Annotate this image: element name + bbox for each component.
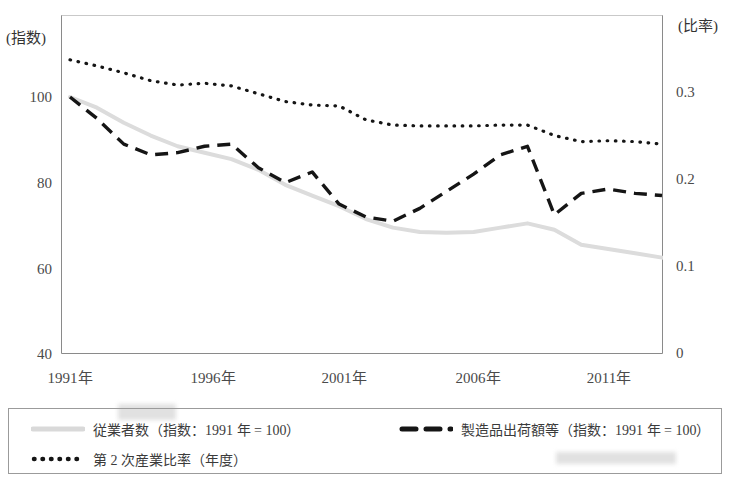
y-axis-tick-left-2: 60 bbox=[8, 261, 52, 278]
y-axis-tick-left-0: 100 bbox=[8, 89, 52, 106]
x-axis-tick-1: 1996年 bbox=[191, 366, 236, 387]
legend-swatch-employees-icon bbox=[31, 422, 85, 436]
series-layer bbox=[70, 60, 662, 258]
y-axis-tick-right-3: 0 bbox=[676, 345, 716, 362]
chart-canvas bbox=[61, 15, 663, 354]
y-axis-tick-left-1: 80 bbox=[8, 175, 52, 192]
series-line-ratio bbox=[70, 60, 662, 144]
legend-label-ratio: 第 2 次産業比率（年度） bbox=[93, 449, 247, 469]
legend-item-ratio[interactable]: 第 2 次産業比率（年度） bbox=[31, 449, 247, 469]
right-axis-title: (比率) bbox=[678, 14, 718, 35]
legend-swatch-ratio-icon bbox=[31, 452, 85, 466]
y-axis-tick-right-2: 0.1 bbox=[676, 258, 716, 275]
plot-area bbox=[61, 15, 663, 354]
left-axis-title: (指数) bbox=[6, 26, 46, 47]
y-axis-tick-left-3: 40 bbox=[8, 346, 52, 363]
y-axis-tick-right-0: 0.3 bbox=[676, 84, 716, 101]
chart-page: (指数) (比率) 100 80 60 40 0.3 0.2 0.1 0 199… bbox=[0, 0, 736, 484]
legend-label-employees: 従業者数（指数：1991 年 = 100） bbox=[93, 419, 300, 439]
x-axis-tick-3: 2006年 bbox=[456, 366, 501, 387]
x-axis-tick-0: 1991年 bbox=[48, 366, 93, 387]
series-line-employees bbox=[70, 97, 662, 258]
x-axis-tick-4: 2011年 bbox=[587, 366, 631, 387]
legend-swatch-shipment-icon bbox=[399, 422, 453, 436]
y-axis-tick-right-1: 0.2 bbox=[676, 171, 716, 188]
legend-label-shipment: 製造品出荷額等（指数：1991 年 = 100） bbox=[461, 419, 710, 439]
x-axis-tick-2: 2001年 bbox=[322, 366, 367, 387]
series-line-shipment bbox=[70, 97, 662, 221]
legend: 従業者数（指数：1991 年 = 100） 製造品出荷額等（指数：1991 年 … bbox=[8, 408, 722, 474]
legend-item-shipment[interactable]: 製造品出荷額等（指数：1991 年 = 100） bbox=[399, 419, 710, 439]
legend-item-employees[interactable]: 従業者数（指数：1991 年 = 100） bbox=[31, 419, 300, 439]
